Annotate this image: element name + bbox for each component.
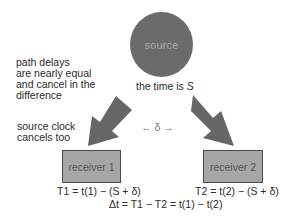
receiver-1-box: receiver 1 [62, 150, 121, 183]
source-clock-note: source clock cancels too [17, 121, 75, 143]
receiver-1-equation: T1 = t(1) − (S + δ) [57, 185, 141, 197]
delta-label: ← δ → [141, 121, 174, 133]
note-line: difference [16, 90, 95, 101]
arrow-to-receiver-2 [191, 95, 234, 146]
receiver-2-box: receiver 2 [203, 150, 263, 183]
time-symbol: S [187, 80, 194, 92]
source-label: source [144, 39, 178, 51]
receiver-2-label: receiver 2 [210, 161, 256, 173]
time-label-text: the time is [136, 80, 187, 92]
receiver-2-equation: T2 = t(2) − (S + δ) [195, 185, 279, 197]
source-node: source [130, 12, 193, 77]
time-label: the time is S [136, 80, 194, 92]
path-delays-note: path delays are nearly equal and cancel … [16, 57, 95, 101]
arrow-to-receiver-1 [88, 96, 132, 146]
difference-equation: Δt = T1 − T2 = t(1) − t(2) [109, 198, 222, 210]
receiver-1-label: receiver 1 [68, 161, 114, 173]
note-line: cancels too [17, 132, 75, 143]
